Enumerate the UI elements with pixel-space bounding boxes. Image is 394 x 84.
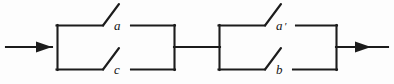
switch-c-label: c xyxy=(114,62,120,77)
switch-b-label: b xyxy=(276,62,283,77)
switching-circuit-figure: a c a ′ b xyxy=(0,0,394,84)
circuit-diagram-canvas: a c a ′ b xyxy=(0,0,394,84)
input-terminal-arrow xyxy=(6,42,52,53)
switch-a-prime-label-group: a ′ xyxy=(276,18,287,33)
output-terminal-arrow xyxy=(336,42,388,53)
right-parallel-block xyxy=(219,4,338,70)
output-arrow-head-icon xyxy=(355,42,371,53)
left-parallel-block xyxy=(57,4,176,70)
switch-a-prime-mark: ′ xyxy=(284,20,287,32)
switch-a-prime-label: a xyxy=(276,18,283,33)
switch-a-label: a xyxy=(114,18,121,33)
input-arrow-head-icon xyxy=(36,42,52,53)
